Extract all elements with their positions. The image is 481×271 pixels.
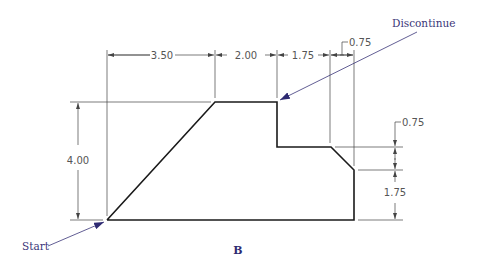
extension-lines [70, 50, 403, 220]
dim-0-75-top: 0.75 [349, 37, 371, 48]
left-dimension: 4.00 [67, 103, 89, 219]
start-label: Start [22, 240, 50, 252]
part-outline [107, 102, 354, 220]
dim-1-75-right: 1.75 [384, 187, 406, 198]
dim-2-00: 2.00 [235, 50, 257, 61]
top-dimensions: 3.50 2.00 1.75 0.75 [108, 37, 371, 61]
technical-drawing: 3.50 2.00 1.75 0.75 4.00 0.75 1.75 Start… [0, 0, 481, 271]
dim-1-75-top: 1.75 [292, 50, 314, 61]
dim-0-75-right: 0.75 [402, 117, 424, 128]
dim-3-50: 3.50 [151, 50, 173, 61]
right-dimensions: 0.75 1.75 [384, 117, 424, 219]
figure-caption: B [233, 244, 242, 257]
discontinue-label: Discontinue [392, 17, 455, 29]
dim-4-00: 4.00 [67, 155, 89, 166]
